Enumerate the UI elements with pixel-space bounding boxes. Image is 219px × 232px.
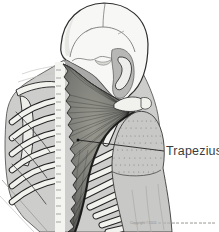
anatomy-illustration (0, 0, 219, 232)
copyright-fineprint (159, 222, 218, 223)
leader-dot (77, 139, 80, 142)
copyright-prefix: Copyright ©2011 (130, 221, 157, 225)
anatomy-figure: Trapezius Copyright ©2011 (0, 0, 219, 232)
deltoid-arm (112, 111, 172, 232)
spinous-processes (55, 62, 65, 232)
muscle-label: Trapezius (166, 144, 219, 158)
copyright-text: Copyright ©2011 (130, 221, 217, 225)
